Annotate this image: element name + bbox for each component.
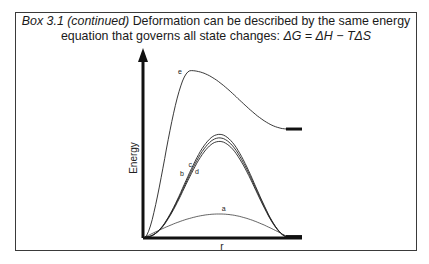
curves-group bbox=[145, 71, 302, 237]
curve-d bbox=[145, 141, 288, 237]
y-axis-label: Energy bbox=[128, 142, 139, 174]
curve-label-d: d bbox=[195, 168, 199, 175]
curve-label-c: c bbox=[188, 161, 192, 168]
energy-chart: Energy r abcde bbox=[0, 0, 429, 264]
curve-label-e: e bbox=[178, 68, 182, 75]
curve-label-a: a bbox=[222, 205, 226, 212]
curve-a bbox=[145, 214, 288, 237]
curve-label-b: b bbox=[180, 170, 184, 177]
x-axis-label: r bbox=[220, 241, 224, 252]
y-axis-arrow-icon bbox=[138, 48, 148, 62]
